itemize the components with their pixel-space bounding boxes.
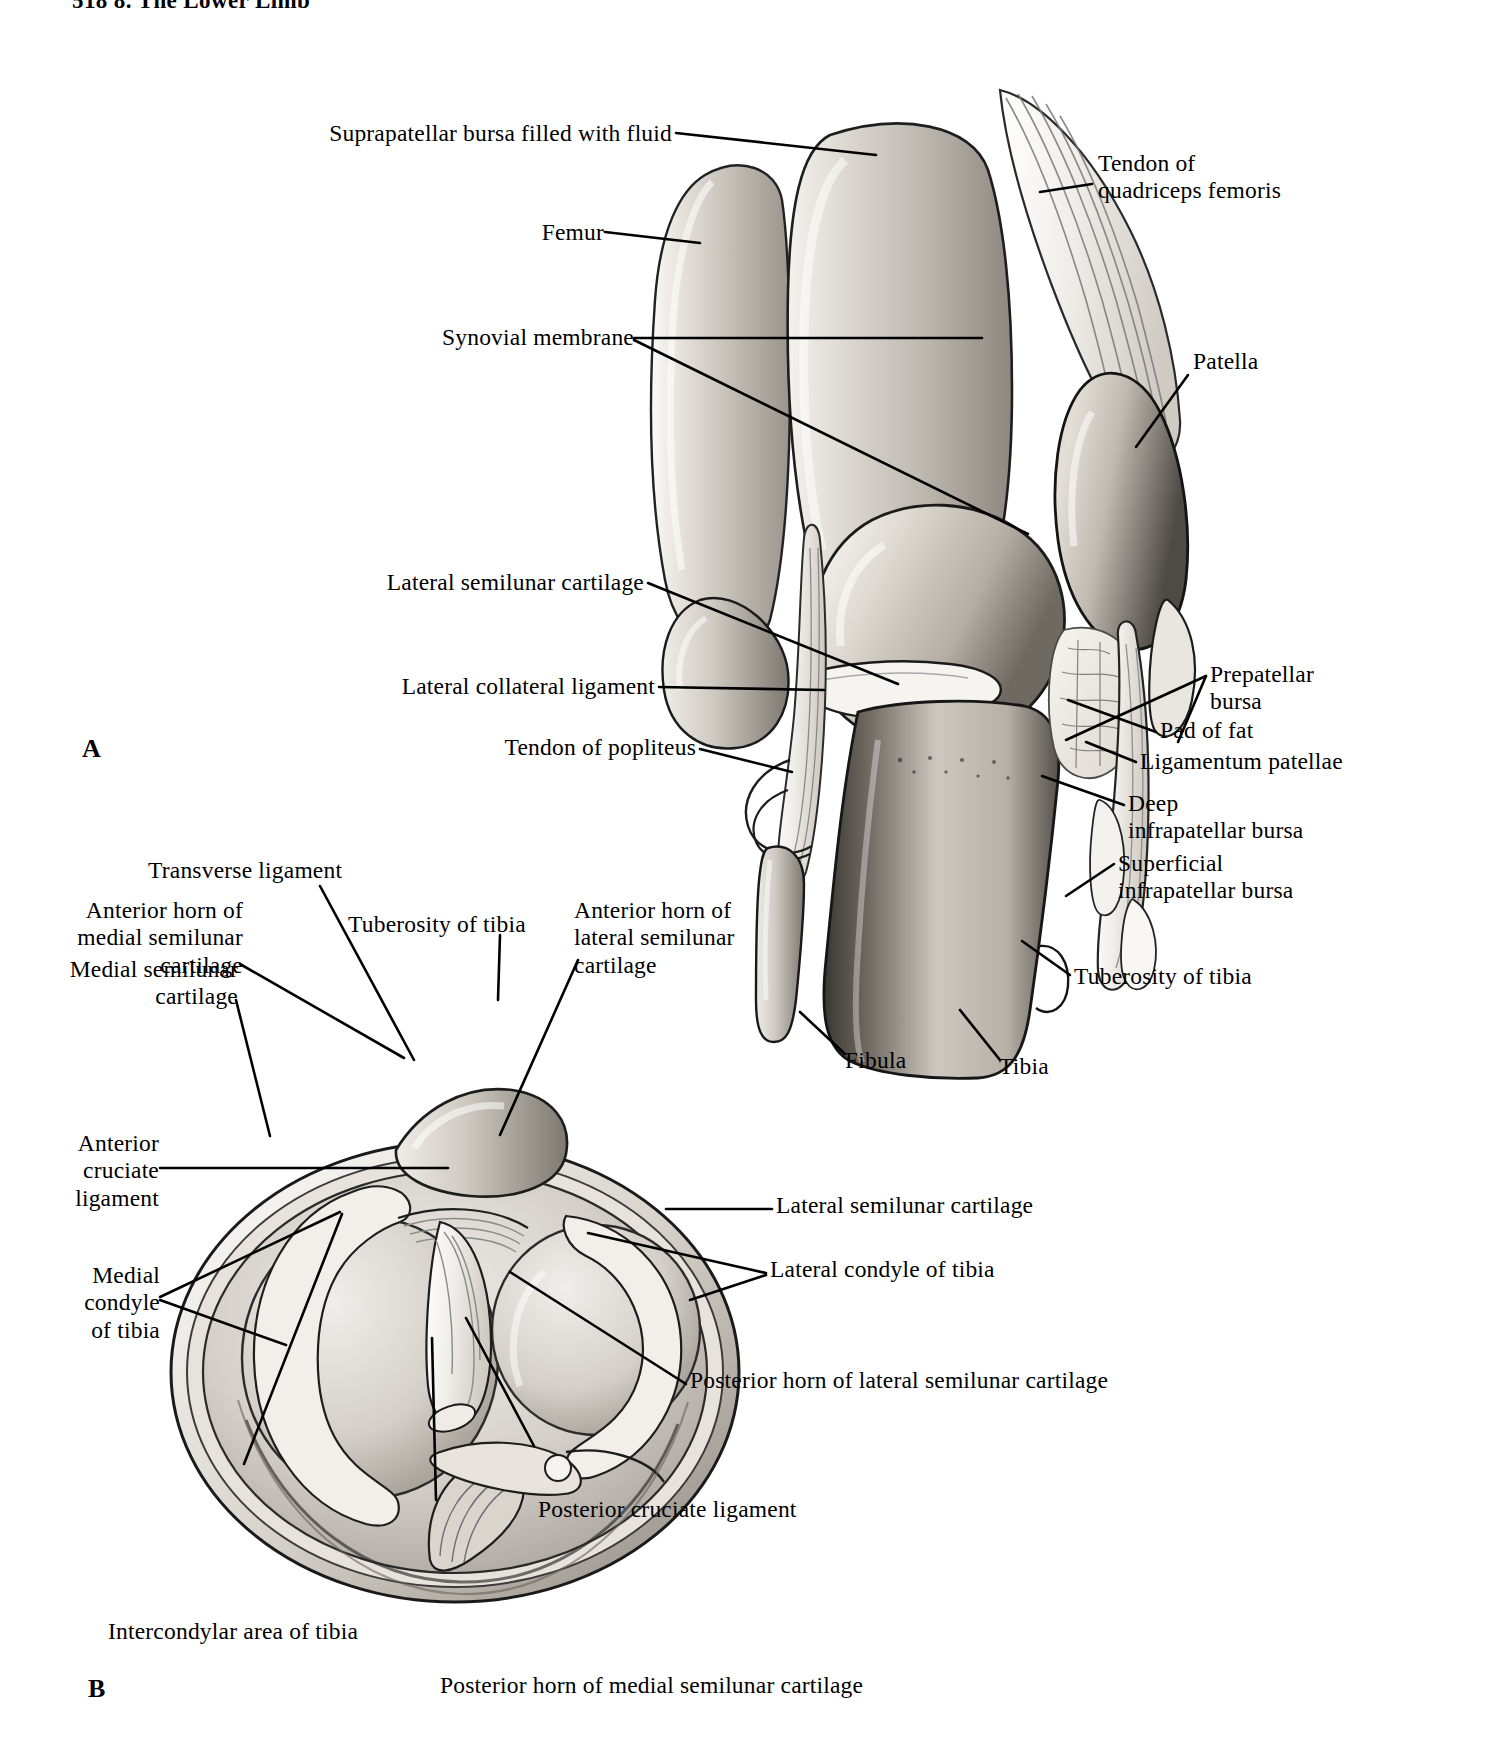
label-posterior-cruciate-ligament: Posterior cruciate ligament: [538, 1496, 797, 1523]
label-transverse-ligament: Transverse ligament: [148, 857, 342, 884]
label-intercondylar-area-of-tibia: Intercondylar area of tibia: [108, 1618, 358, 1645]
label-superficial-infrapatellar-bursa: Superficial infrapatellar bursa: [1118, 850, 1293, 905]
label-synovial-membrane: Synovial membrane: [442, 324, 634, 351]
label-tendon-of-popliteus: Tendon of popliteus: [505, 734, 696, 761]
label-anterior-cruciate-ligament: Anterior cruciate ligament: [75, 1130, 159, 1212]
label-patella: Patella: [1193, 348, 1258, 375]
label-lateral-condyle-of-tibia: Lateral condyle of tibia: [770, 1256, 995, 1283]
label-tuberosity-of-tibia-b: Tuberosity of tibia: [348, 911, 526, 938]
label-prepatellar-bursa: Prepatellar bursa: [1210, 661, 1314, 716]
label-deep-infrapatellar-bursa: Deep infrapatellar bursa: [1128, 790, 1303, 845]
label-medial-semilunar-cartilage: Medial semilunar cartilage: [70, 956, 238, 1011]
anatomy-page: 518 8. The Lower Limb: [0, 0, 1508, 1759]
label-tibia: Tibia: [999, 1053, 1049, 1080]
label-anterior-horn-lateral-semilunar-cartilage: Anterior horn of lateral semilunar carti…: [574, 897, 735, 979]
figure-letter-a: A: [82, 734, 101, 764]
figure-letter-b: B: [88, 1674, 105, 1704]
running-head: 518 8. The Lower Limb: [72, 0, 310, 14]
label-lateral-semilunar-cartilage-b: Lateral semilunar cartilage: [776, 1192, 1033, 1219]
label-posterior-horn-lateral-semilunar-cartilage: Posterior horn of lateral semilunar cart…: [690, 1367, 1108, 1394]
label-lateral-semilunar-cartilage-a: Lateral semilunar cartilage: [387, 569, 644, 596]
label-pad-of-fat: Pad of fat: [1160, 717, 1253, 744]
label-medial-condyle-of-tibia: Medial condyle of tibia: [84, 1262, 160, 1344]
label-fibula: Fibula: [845, 1047, 906, 1074]
label-ligamentum-patellae: Ligamentum patellae: [1140, 748, 1343, 775]
label-lateral-collateral-ligament: Lateral collateral ligament: [402, 673, 655, 700]
label-posterior-horn-medial-semilunar-cartilage: Posterior horn of medial semilunar carti…: [440, 1672, 863, 1699]
label-suprapatellar-bursa: Suprapatellar bursa filled with fluid: [329, 120, 672, 147]
label-tuberosity-of-tibia-a: Tuberosity of tibia: [1074, 963, 1252, 990]
label-femur: Femur: [542, 219, 604, 246]
label-tendon-of-quadriceps-femoris: Tendon of quadriceps femoris: [1098, 150, 1281, 205]
